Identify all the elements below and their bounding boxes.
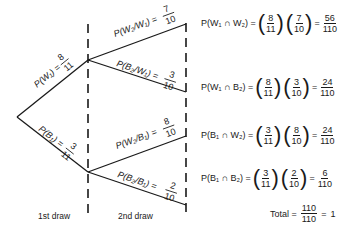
result-num: 56 [324, 13, 336, 24]
result-w1-b2: P(W₁ ∩ B₂) = 811 310 = 24110 [201, 76, 336, 98]
frac-num: 3 [293, 77, 300, 88]
frac-den: 11 [263, 136, 274, 146]
result-lhs: P(W₁ ∩ B₂) = [201, 82, 253, 92]
total-den: 110 [301, 214, 317, 224]
frac-num: 3 [265, 125, 272, 136]
frac-den: 10 [291, 136, 303, 146]
result-lhs: P(B₁ ∩ W₂) = [201, 130, 253, 140]
equals-sign: = [321, 209, 326, 219]
frac-num: 8 [267, 13, 274, 24]
label-p-b2-w1: P(B₂/W₁) = [115, 58, 159, 81]
result-b1-w2: P(B₁ ∩ W₂) = 311 810 = 24110 [201, 124, 336, 146]
label-p-w2-w1-den: 10 [164, 14, 177, 27]
result-num: 24 [321, 125, 333, 136]
result-w1-w2: P(W₁ ∩ W₂) = 811 710 = 56110 [201, 12, 338, 34]
result-den: 110 [317, 179, 333, 189]
frac-den: 10 [293, 24, 305, 34]
label-p-w2-b1-den: 10 [164, 126, 177, 139]
label-p-b2-w1-num: 3 [168, 69, 176, 80]
second-draw-label: 2nd draw [118, 211, 153, 221]
frac-num: 2 [291, 168, 298, 179]
result-lhs: P(W₁ ∩ W₂) = [201, 18, 256, 28]
label-p-w2-w1: P(W₂/W₁) = [112, 14, 158, 39]
result-b1-b2: P(B₁ ∩ B₂) = 311 210 = 6110 [201, 167, 333, 189]
label-p-b1-num: 3 [68, 141, 78, 152]
total-value: 1 [330, 209, 335, 219]
tree-diagram: P(W₁) = 8 11 P(B₁) = 3 11 P(W₂/W₁) = 7 1… [0, 0, 349, 237]
frac-num: 8 [265, 77, 272, 88]
label-p-w2-w1-num: 7 [162, 3, 170, 14]
result-lhs: P(B₁ ∩ B₂) = [201, 173, 251, 183]
total-equation: Total = 110110 = 1 [270, 203, 335, 224]
result-den: 110 [322, 24, 338, 34]
label-p-b2-b1-num: 2 [169, 180, 177, 191]
frac-num: 7 [296, 13, 303, 24]
equals-sign: = [312, 130, 317, 140]
frac-den: 11 [263, 88, 274, 98]
total-num: 110 [301, 203, 317, 214]
frac-den: 11 [265, 24, 276, 34]
result-num: 6 [321, 168, 328, 179]
result-num: 24 [321, 77, 333, 88]
first-draw-label: 1st draw [38, 211, 70, 221]
result-den: 110 [319, 136, 335, 146]
label-p-b2-b1-den: 10 [163, 191, 176, 204]
frac-num: 3 [262, 168, 269, 179]
equals-sign: = [314, 18, 319, 28]
total-label: Total = [270, 209, 297, 219]
frac-num: 8 [293, 125, 300, 136]
equals-sign: = [312, 82, 317, 92]
equals-sign: = [309, 173, 314, 183]
frac-den: 11 [260, 179, 271, 189]
label-p-w2-b1: P(W₂/B₁) = [114, 127, 158, 151]
label-p-w2-b1-num: 8 [162, 116, 170, 127]
frac-den: 10 [291, 88, 303, 98]
result-den: 110 [319, 88, 335, 98]
label-p-w1: P(W₁) = [32, 62, 62, 89]
label-p-w1-num: 8 [56, 52, 66, 63]
frac-den: 10 [288, 179, 300, 189]
label-p-b2-w1-den: 10 [162, 80, 175, 93]
